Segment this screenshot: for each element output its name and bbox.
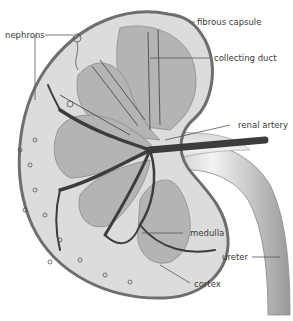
label-nephrons: nephrons	[5, 30, 45, 40]
label-ureter: ureter	[222, 252, 248, 262]
kidney-diagram: nephrons fibrous capsule collecting duct…	[0, 0, 293, 321]
label-medulla: medulla	[190, 228, 224, 238]
label-collecting-duct: collecting duct	[214, 53, 277, 63]
label-renal-artery: renal artery	[238, 120, 288, 130]
label-cortex: cortex	[194, 279, 221, 289]
label-fibrous-capsule: fibrous capsule	[197, 17, 261, 27]
